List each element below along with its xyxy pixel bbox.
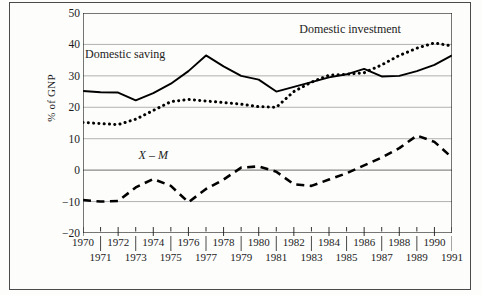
y-tick-label: 40: [46, 38, 80, 50]
y-axis-tick-labels: 50403020100−10−20: [44, 0, 80, 295]
chart-plot-area: [83, 13, 452, 233]
x-tick-label-bottom: 1985: [336, 251, 358, 263]
x-tick-label-bottom: 1977: [195, 251, 217, 263]
plot-frame: [83, 13, 452, 233]
figure-container: % of GNP 50403020100−10−20 Domestic savi…: [0, 0, 482, 295]
x-tick-marks-below: [83, 227, 452, 236]
x-tick-label-top: 1988: [388, 236, 410, 248]
x-tick-label-bottom: 1981: [265, 251, 287, 263]
x-tick-label-top: 1982: [283, 236, 305, 248]
x-tick-label-bottom: 1983: [300, 251, 322, 263]
x-tick-label-top: 1976: [177, 236, 199, 248]
y-tick-label: 30: [46, 70, 80, 82]
series-label-3: X – M: [139, 148, 168, 163]
gridlines: [83, 44, 452, 201]
x-tick-label-bottom: 1973: [125, 251, 147, 263]
x-tick-label-top: 1970: [72, 236, 94, 248]
y-tick-label: −10: [46, 196, 80, 208]
x-tick-label-bottom: 1989: [406, 251, 428, 263]
data-series-layer: [83, 43, 452, 202]
y-tick-label: 20: [46, 101, 80, 113]
x-axis-tick-labels: 1970197219741976197819801982198419861988…: [83, 236, 452, 276]
x-tick-label-top: 1972: [107, 236, 129, 248]
series-line: [83, 136, 452, 203]
x-tick-label-top: 1974: [142, 236, 164, 248]
x-tick-label-bottom: 1979: [230, 251, 252, 263]
x-tick-label-top: 1984: [318, 236, 340, 248]
x-tick-label-bottom: 1987: [371, 251, 393, 263]
y-tick-label: 50: [46, 7, 80, 19]
x-tick-label-bottom: 1975: [160, 251, 182, 263]
series-label-1: Domestic saving: [85, 47, 165, 62]
chart-plot-wrapper: % of GNP 50403020100−10−20 Domestic savi…: [0, 0, 482, 295]
x-tick-label-bottom: 1971: [90, 251, 112, 263]
series-label-2: Domestic investment: [299, 22, 401, 37]
x-tick-label-top: 1978: [213, 236, 235, 248]
x-tick-label-bottom: 1991: [441, 251, 463, 263]
y-tick-label: 0: [46, 164, 80, 176]
x-tick-label-top: 1990: [423, 236, 445, 248]
x-tick-label-top: 1986: [353, 236, 375, 248]
x-tick-label-top: 1980: [248, 236, 270, 248]
y-tick-label: 10: [46, 133, 80, 145]
